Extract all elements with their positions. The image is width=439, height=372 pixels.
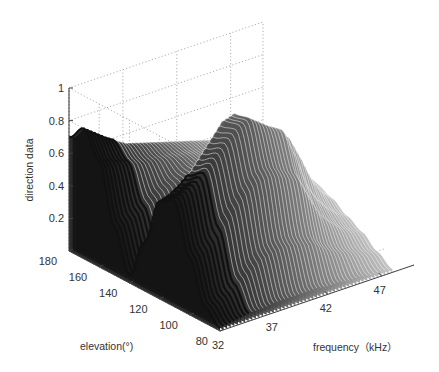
z-tick-label: 0.6 xyxy=(49,147,64,159)
x-axis-label: frequency（kHz） xyxy=(313,341,397,353)
frequency-tick-label: 42 xyxy=(320,302,332,314)
z-tick-label: 0.2 xyxy=(49,212,64,224)
surface-layer xyxy=(69,114,392,331)
elevation-tick-label: 100 xyxy=(159,319,177,331)
elevation-tick-label: 180 xyxy=(39,255,57,267)
y-axis-label: elevation(°) xyxy=(80,340,133,352)
z-tick-label: 1 xyxy=(58,82,64,94)
elevation-tick-label: 80 xyxy=(196,335,208,347)
frequency-tick-label: 47 xyxy=(374,284,386,296)
surface-plot: direction data elevation(°) frequency（kH… xyxy=(0,0,439,372)
z-tick-label: 0.8 xyxy=(49,115,64,127)
elevation-tick-label: 160 xyxy=(69,271,87,283)
elevation-tick-label: 120 xyxy=(129,303,147,315)
z-axis-label: direction data xyxy=(23,138,35,201)
z-tick-label: 0.4 xyxy=(49,180,64,192)
frequency-tick-label: 32 xyxy=(212,339,224,351)
elevation-tick-label: 140 xyxy=(99,287,117,299)
frequency-tick-label: 37 xyxy=(266,321,278,333)
